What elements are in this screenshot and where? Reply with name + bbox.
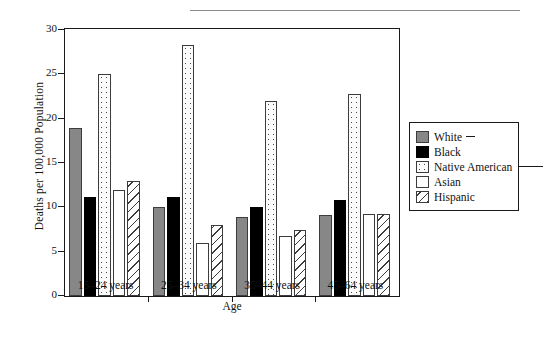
legend-item-white: White [416,129,513,144]
y-tick [58,73,65,74]
bar-native-american-2 [265,101,278,296]
bar-white-0 [69,128,82,296]
bar-native-american-1 [182,45,195,296]
y-tick [58,29,65,30]
legend: White Black Native American Asian Hispan… [409,122,519,211]
legend-item-black: Black [416,144,513,159]
x-group-label-2: 35–44 years [231,279,314,291]
plot-area: 051015202530 [64,28,400,297]
legend-swatch-hispanic [416,191,429,203]
legend-item-hispanic: Hispanic [416,189,513,204]
bar-chart: Deaths per 100,000 Population 0510152025… [0,0,546,342]
y-tick-label: 20 [31,111,57,123]
y-tick [58,251,65,252]
legend-item-asian: Asian [416,174,513,189]
y-tick-label: 0 [31,288,57,300]
y-tick-label: 10 [31,199,57,211]
y-tick [58,162,65,163]
y-tick [58,295,65,296]
x-axis-title: Age [64,300,400,312]
legend-swatch-white [416,131,429,143]
header-rule [190,10,520,11]
legend-swatch-asian [416,176,429,188]
y-tick-label: 5 [31,244,57,256]
y-tick-label: 30 [31,22,57,34]
legend-swatch-black [416,146,429,158]
y-tick [58,118,65,119]
legend-label-black: Black [434,146,461,158]
x-group-label-3: 45–64 years [314,279,397,291]
legend-label-white: White [434,131,462,143]
y-tick-label: 25 [31,66,57,78]
legend-label-native-american: Native American [434,161,512,173]
legend-label-asian: Asian [434,176,461,188]
legend-leader-dash-white [466,136,475,137]
legend-item-native-american: Native American [416,159,513,174]
legend-leader-line [519,166,543,167]
y-tick-label: 15 [31,155,57,167]
plot-inner: 051015202530 [65,29,399,296]
legend-label-hispanic: Hispanic [434,191,475,203]
legend-swatch-native-american [416,161,429,173]
bar-native-american-0 [98,74,111,296]
x-group-label-1: 25–34 years [147,279,230,291]
y-tick [58,206,65,207]
bar-native-american-3 [348,94,361,296]
x-group-label-0: 15–24 years [64,279,147,291]
